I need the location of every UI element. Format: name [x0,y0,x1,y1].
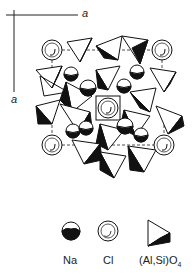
legend-label-tetrahedron: (Al,Si)O4 [139,254,181,268]
legend-label-formula: (Al,Si)O [139,254,178,266]
legend-cl-icon [98,221,118,241]
crystal-structure-diagram [0,0,193,273]
legend-na-icon [62,222,80,240]
legend-label-na: Na [63,254,77,266]
legend-tetrahedron-icon [148,220,170,246]
axis-label-horizontal: a [82,7,88,19]
axis-label-vertical: a [11,93,17,105]
legend-label-subscript: 4 [178,261,182,268]
legend-label-cl: Cl [103,254,113,266]
